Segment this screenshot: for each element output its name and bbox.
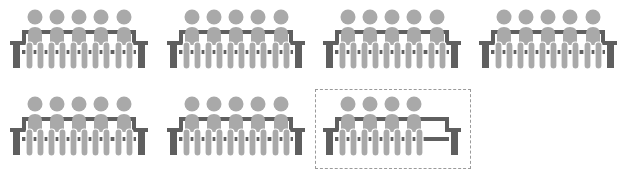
seated-person-icon (383, 97, 401, 157)
seated-person-icon (70, 97, 88, 157)
seated-person-icon (92, 97, 110, 157)
seated-person-icon (339, 97, 357, 157)
seated-person-icon (361, 97, 379, 157)
seated-person-icon (26, 10, 44, 70)
seated-person-icon (361, 10, 379, 70)
seated-person-icon (428, 10, 446, 70)
bench-icon-3 (321, 5, 463, 71)
seated-person-icon (272, 10, 290, 70)
seated-person-icon (115, 97, 133, 157)
seated-person-icon (205, 97, 223, 157)
bench-icon-6 (165, 92, 307, 158)
seated-person-icon (48, 10, 66, 70)
seated-person-icon (584, 10, 602, 70)
seated-person-icon (495, 10, 513, 70)
seated-person-icon (383, 10, 401, 70)
seated-person-icon (48, 97, 66, 157)
bench-icon-7 (321, 92, 463, 158)
seated-person-icon (227, 97, 245, 157)
seated-person-icon (92, 10, 110, 70)
seated-person-icon (26, 97, 44, 157)
bench-icon-5 (8, 92, 150, 158)
seated-person-icon (405, 10, 423, 70)
seated-person-icon (539, 10, 557, 70)
seated-person-icon (183, 97, 201, 157)
bench-icon-1 (8, 5, 150, 71)
seated-person-icon (249, 10, 267, 70)
bench-icon-4 (477, 5, 619, 71)
bench-icon-2 (165, 5, 307, 71)
seated-person-icon (249, 97, 267, 157)
seated-person-icon (115, 10, 133, 70)
seated-person-icon (272, 97, 290, 157)
seated-person-icon (205, 10, 223, 70)
seated-person-icon (70, 10, 88, 70)
seated-person-icon (561, 10, 579, 70)
seated-person-icon (339, 10, 357, 70)
seated-person-icon (517, 10, 535, 70)
seated-person-icon (405, 97, 423, 157)
seated-person-icon (227, 10, 245, 70)
seated-person-icon (183, 10, 201, 70)
